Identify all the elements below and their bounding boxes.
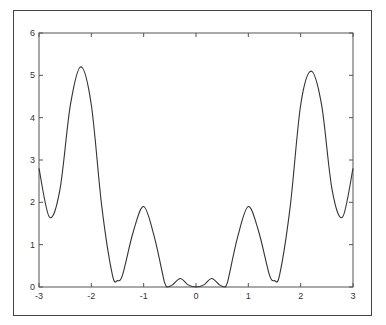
y-axis-ticks: 0123456 [30,28,353,292]
x-tick-label: -1 [140,291,148,301]
y-tick-label: 3 [30,155,35,165]
x-tick-label: 3 [350,291,355,301]
y-tick-label: 1 [30,240,35,250]
x-tick-label: 1 [246,291,251,301]
y-tick-label: 6 [30,28,35,38]
x-tick-label: -2 [87,291,95,301]
y-tick-label: 0 [30,282,35,292]
y-tick-label: 5 [30,70,35,80]
x-tick-label: -3 [35,291,43,301]
y-tick-label: 4 [30,113,35,123]
axes-box [39,33,353,287]
x-axis-ticks: -3-2-10123 [35,33,356,301]
x-tick-label: 0 [193,291,198,301]
data-line [39,67,353,287]
x-tick-label: 2 [298,291,303,301]
y-tick-label: 2 [30,197,35,207]
line-chart: -3-2-10123 0123456 [0,0,386,325]
